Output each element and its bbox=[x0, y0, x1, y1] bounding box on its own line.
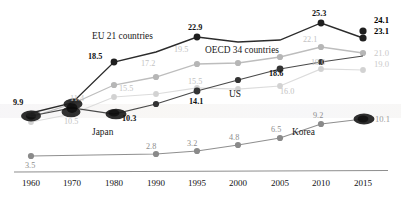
data-label-korea-2000: 4.8 bbox=[229, 134, 239, 142]
data-label-oecd-1990: 17.2 bbox=[141, 60, 155, 68]
obscured-marker-cluster-2015 bbox=[354, 114, 375, 125]
data-label-eu-2010: 25.3 bbox=[312, 10, 326, 18]
data-label-eu-1995: 22.9 bbox=[188, 24, 202, 32]
x-tick-1980: 1980 bbox=[105, 178, 123, 188]
x-axis-line bbox=[14, 171, 388, 173]
x-tick-1995: 1995 bbox=[188, 178, 206, 188]
x-tick-1970: 1970 bbox=[63, 178, 81, 188]
line-chart: 1960 1970 1980 1990 1995 2000 2005 2010 … bbox=[0, 0, 401, 198]
data-label-us-2005: 16.0 bbox=[280, 88, 294, 96]
x-tick-2000: 2000 bbox=[229, 178, 247, 188]
data-label-korea-1960: 3.5 bbox=[25, 162, 35, 170]
data-label-japan-2015: 24.1 bbox=[374, 16, 389, 25]
data-label-japan-1960: 9.9 bbox=[13, 99, 23, 107]
series-annotation-us: US bbox=[229, 90, 241, 99]
x-tick-2015: 2015 bbox=[354, 178, 372, 188]
x-tick-2005: 2005 bbox=[271, 178, 289, 188]
series-annotation-oecd: OECD 34 countries bbox=[205, 46, 279, 55]
data-label-us-2015: 19.0 bbox=[374, 60, 389, 69]
data-label-japan-1980: 10.3 bbox=[122, 115, 136, 123]
x-tick-2010: 2010 bbox=[312, 178, 330, 188]
data-label-us-2010: 19.0 bbox=[311, 59, 325, 67]
data-label-oecd-2010: 22.1 bbox=[303, 36, 317, 44]
data-label-korea-1995: 3.2 bbox=[187, 140, 197, 148]
data-label-japan-1995: 14.1 bbox=[189, 98, 203, 106]
data-label-eu-2015: 23.1 bbox=[374, 27, 389, 36]
x-tick-1990: 1990 bbox=[147, 178, 165, 188]
data-label-eu-1980: 18.5 bbox=[88, 53, 102, 61]
data-label-korea-2010: 9.2 bbox=[313, 112, 323, 120]
series-annotation-korea: Korea bbox=[292, 128, 315, 137]
data-label-oecd-1980: 15.5 bbox=[119, 85, 133, 93]
data-label-korea-2005: 6.5 bbox=[271, 126, 281, 134]
endpoint-markers-2015 bbox=[359, 27, 366, 41]
data-label-oecd-2015: 21.0 bbox=[374, 49, 389, 58]
data-label-korea-1990: 2.8 bbox=[146, 143, 156, 151]
obscured-marker-cluster-1960 bbox=[21, 111, 41, 122]
data-label-korea-2015: 10.1 bbox=[375, 115, 390, 124]
series-annotation-japan: Japan bbox=[92, 128, 113, 137]
data-label-us-1970: 10.5 bbox=[64, 118, 78, 126]
data-label-japan-2010: 18.6 bbox=[269, 70, 283, 78]
x-tick-1960: 1960 bbox=[22, 178, 40, 188]
data-label-japan-1970: 11.4 bbox=[70, 95, 84, 103]
data-label-oecd-1995: 19.5 bbox=[174, 46, 188, 54]
series-annotation-eu: EU 21 countries bbox=[92, 32, 153, 41]
data-label-us-1995: 15.5 bbox=[188, 78, 202, 86]
